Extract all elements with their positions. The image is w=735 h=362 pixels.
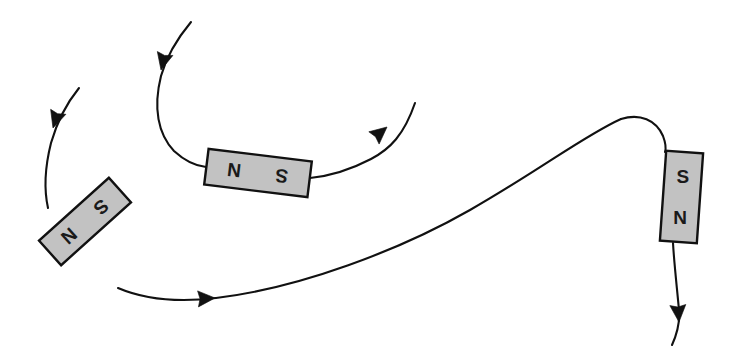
left-field-line xyxy=(46,88,79,208)
arrow-bottom-rightward xyxy=(198,290,216,307)
arrowheads-group xyxy=(45,52,687,323)
field-line-diagram: S N S N S N xyxy=(0,0,735,362)
arrow-right-downward xyxy=(670,304,687,322)
right-magnet-north-label: N xyxy=(673,207,687,228)
middle-magnet-body xyxy=(204,149,312,197)
right-field-line-tail xyxy=(672,243,679,345)
magnet-right[interactable]: S N xyxy=(660,151,703,243)
right-magnet-body xyxy=(660,151,703,243)
middle-field-line-inflow xyxy=(157,22,206,167)
magnet-middle[interactable]: S N xyxy=(204,149,312,197)
left-field-line-lower xyxy=(118,119,621,300)
arrow-middle-up-right xyxy=(369,121,392,144)
middle-magnet-south-label: S xyxy=(274,165,289,187)
middle-magnet-north-label: N xyxy=(226,159,242,182)
field-lines-group xyxy=(46,22,680,345)
left-magnet-body xyxy=(39,178,131,265)
right-field-line-hump xyxy=(621,117,666,152)
magnet-left[interactable]: S N xyxy=(39,178,131,265)
middle-field-line-outflow xyxy=(310,103,415,178)
magnetic-field-figure: S N S N S N xyxy=(0,0,735,362)
right-magnet-south-label: S xyxy=(677,166,690,187)
